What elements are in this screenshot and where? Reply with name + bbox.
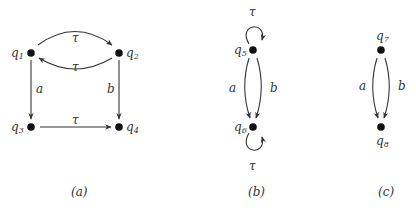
node-label-q2: q2 — [126, 46, 139, 61]
transition-diagrams: q1 q2 q3 q4 τ τ a b τ (a) q5 q6 τ a b τ … — [0, 0, 416, 211]
edge-q7-q8-a — [373, 58, 378, 118]
edge-label-q7-q8-b: b — [398, 79, 406, 93]
edge-label-q2-q4: b — [107, 82, 115, 96]
node-q6 — [249, 123, 257, 131]
edge-label-q5-q6-a: a — [229, 81, 236, 95]
node-label-q1: q1 — [11, 46, 24, 61]
edge-label-q3-q4: τ — [72, 113, 79, 127]
edge-q5-q6-a — [245, 58, 250, 118]
node-q2 — [115, 49, 123, 57]
node-q8 — [377, 123, 385, 131]
node-label-q7: q7 — [376, 29, 390, 44]
edge-label-q5-loop: τ — [249, 5, 256, 19]
node-label-q4: q4 — [126, 120, 139, 135]
graph-a: q1 q2 q3 q4 τ τ a b τ (a) — [11, 31, 139, 199]
node-label-q6: q6 — [234, 120, 247, 135]
node-q4 — [115, 123, 123, 131]
node-q5 — [249, 46, 257, 54]
caption-b: (b) — [248, 185, 265, 199]
caption-a: (a) — [71, 185, 88, 199]
edge-q6-loop-tau — [246, 133, 262, 150]
edge-q5-q6-b — [256, 58, 261, 118]
edge-label-q1-q3: a — [36, 82, 43, 96]
edge-label-q2-q1: τ — [72, 60, 79, 74]
node-label-q5: q5 — [234, 43, 247, 58]
graph-c: q7 q8 a b (c) — [359, 29, 406, 199]
edge-q5-loop-tau — [246, 27, 262, 44]
node-label-q8: q8 — [376, 134, 389, 149]
edge-label-q6-loop: τ — [249, 159, 256, 173]
caption-c: (c) — [378, 185, 394, 199]
edge-label-q7-q8-a: a — [359, 79, 366, 93]
node-label-q3: q3 — [11, 120, 24, 135]
edge-q7-q8-b — [384, 58, 389, 118]
node-q1 — [27, 49, 35, 57]
graph-b: q5 q6 τ a b τ (b) — [229, 5, 278, 199]
node-q7 — [377, 46, 385, 54]
edge-label-q5-q6-b: b — [270, 81, 278, 95]
node-q3 — [27, 123, 35, 131]
edge-label-q1-q2: τ — [72, 31, 79, 45]
